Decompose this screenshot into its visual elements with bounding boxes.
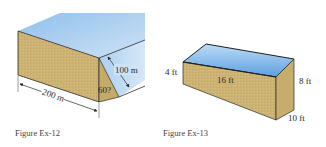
shallow-depth-label: 4 ft	[165, 67, 178, 77]
width-label: 100 m	[115, 65, 138, 75]
figures-canvas: 100 m 60? 200 m 4 ft 16 ft 8 ft 10 ft	[0, 0, 326, 147]
pool-width-label: 10 ft	[288, 113, 305, 123]
pool-length-label: 16 ft	[217, 75, 234, 85]
caption-figure-ex-12: Figure Ex-12	[15, 128, 60, 138]
figure-ex-12: 100 m 60? 200 m	[18, 13, 145, 118]
angle-label: 60?	[98, 85, 111, 95]
figure-ex-13: 4 ft 16 ft 8 ft 10 ft	[165, 44, 312, 123]
caption-figure-ex-13: Figure Ex-13	[163, 128, 208, 138]
deep-depth-label: 8 ft	[299, 76, 312, 86]
